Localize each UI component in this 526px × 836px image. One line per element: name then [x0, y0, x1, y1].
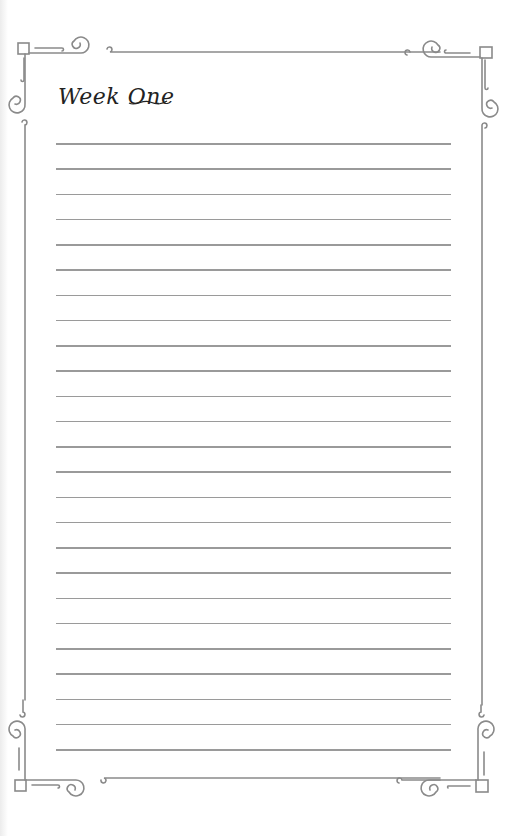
writing-line: [56, 219, 451, 221]
writing-line: [56, 724, 451, 726]
writing-line: [56, 345, 451, 347]
writing-line: [56, 497, 451, 499]
writing-line: [56, 421, 451, 423]
writing-line: [56, 623, 451, 625]
writing-line: [56, 699, 451, 701]
writing-line: [56, 673, 451, 675]
writing-line: [56, 749, 451, 751]
writing-line: [56, 572, 451, 574]
writing-line: [56, 471, 451, 473]
writing-line: [56, 143, 451, 145]
writing-line: [56, 648, 451, 650]
writing-line: [56, 168, 451, 170]
writing-line: [56, 244, 451, 246]
writing-lines: [56, 0, 451, 836]
writing-line: [56, 396, 451, 398]
writing-line: [56, 269, 451, 271]
writing-line: [56, 446, 451, 448]
writing-line: [56, 598, 451, 600]
writing-line: [56, 547, 451, 549]
writing-line: [56, 194, 451, 196]
writing-line: [56, 320, 451, 322]
writing-line: [56, 295, 451, 297]
writing-line: [56, 522, 451, 524]
writing-line: [56, 370, 451, 372]
